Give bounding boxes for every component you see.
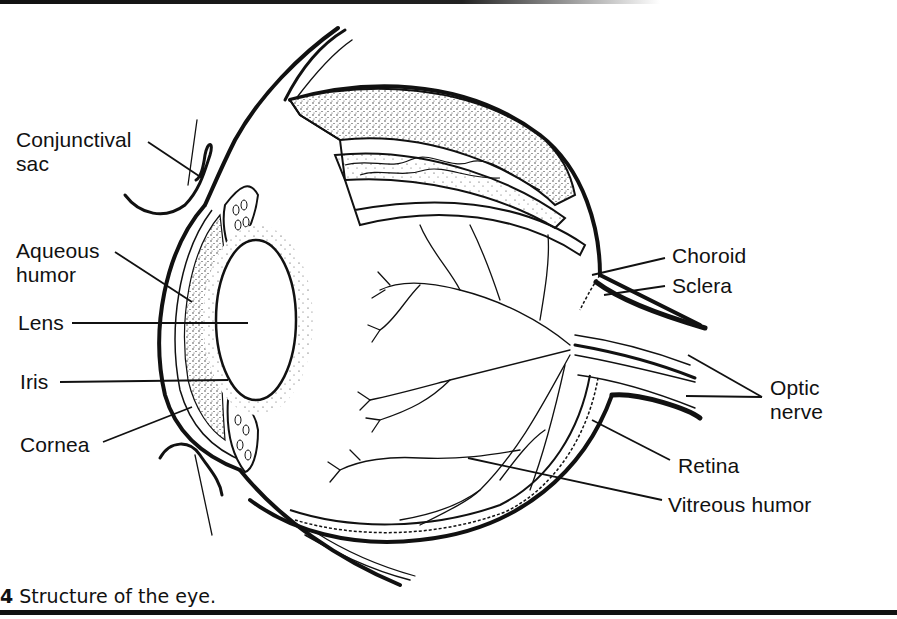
eye-cross-section-illustration	[0, 0, 897, 619]
leader-vitreous-humor	[468, 458, 662, 500]
lower-eyelid	[240, 470, 415, 585]
leader-optic-nerve-upper	[688, 355, 762, 397]
label-optic-nerve-line1: Optic	[770, 376, 823, 400]
leader-retina	[592, 420, 670, 460]
lens	[216, 240, 296, 400]
leader-optic-nerve-lower	[686, 396, 762, 397]
label-sclera: Sclera	[672, 274, 732, 298]
leader-aqueous-humor	[115, 252, 192, 302]
leader-conjunctival-sac	[148, 142, 202, 178]
bottom-border-rule	[0, 610, 897, 615]
sclera-cutaway-stippled	[290, 89, 575, 205]
conjunctival-fold-upper	[125, 120, 211, 214]
label-aqueous-humor-line2: humor	[16, 263, 100, 287]
label-conjunctival-sac-line2: sac	[16, 152, 132, 176]
label-retina: Retina	[678, 454, 739, 478]
label-vitreous-humor: Vitreous humor	[668, 493, 811, 517]
label-iris: Iris	[20, 370, 48, 394]
retinal-blood-vessels	[328, 225, 570, 525]
leader-choroid	[592, 258, 665, 275]
figure-number: 4	[0, 585, 13, 607]
label-cornea: Cornea	[20, 433, 89, 457]
label-optic-nerve: Optic nerve	[770, 376, 823, 424]
leader-lines	[60, 142, 762, 500]
label-conjunctival-sac-line1: Conjunctival	[16, 128, 132, 152]
label-conjunctival-sac: Conjunctival sac	[16, 128, 132, 176]
figure-caption: 4 Structure of the eye.	[0, 585, 216, 607]
label-lens: Lens	[18, 311, 64, 335]
retina-lining	[290, 375, 590, 524]
label-aqueous-humor-line1: Aqueous	[16, 239, 100, 263]
label-choroid: Choroid	[672, 244, 746, 268]
label-aqueous-humor: Aqueous humor	[16, 239, 100, 287]
figure-caption-text: Structure of the eye.	[19, 585, 216, 607]
label-optic-nerve-line2: nerve	[770, 400, 823, 424]
